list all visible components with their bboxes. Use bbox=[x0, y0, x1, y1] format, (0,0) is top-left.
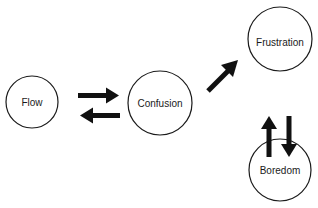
node-boredom: Boredom bbox=[249, 139, 311, 201]
boredom-label: Boredom bbox=[260, 165, 301, 176]
node-frustration: Frustration bbox=[248, 7, 312, 71]
frustration-label: Frustration bbox=[256, 37, 304, 48]
arrow-confusion-to-frustration-icon bbox=[208, 60, 238, 91]
arrow-flow-to-confusion-icon bbox=[78, 88, 119, 104]
diagram-canvas: Flow Confusion Frustration Boredom bbox=[0, 0, 318, 208]
flow-label: Flow bbox=[21, 97, 43, 108]
node-confusion: Confusion bbox=[128, 71, 192, 135]
confusion-label: Confusion bbox=[137, 98, 182, 109]
node-flow: Flow bbox=[6, 76, 58, 128]
arrow-confusion-to-flow-icon bbox=[80, 108, 120, 124]
